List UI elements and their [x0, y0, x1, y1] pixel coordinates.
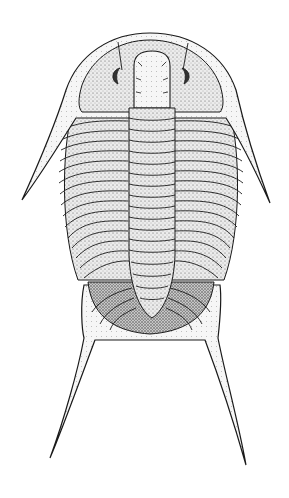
- trilobite-illustration: [0, 0, 289, 498]
- axial-rachis: [129, 108, 175, 318]
